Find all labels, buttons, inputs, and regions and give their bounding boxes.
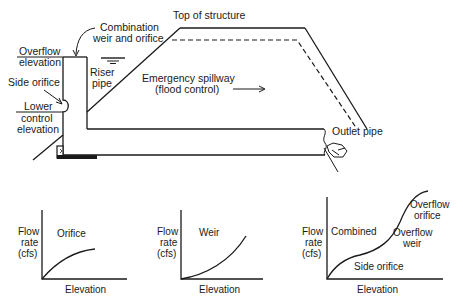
- chart-orifice-title: Orifice: [57, 228, 86, 239]
- label-side-orifice: Side orifice: [8, 76, 60, 88]
- chart-weir-xlabel: Elevation: [199, 284, 240, 295]
- riser-left-wall: [63, 57, 68, 155]
- chart-orifice: Flow rate (cfs) Orifice Elevation: [18, 210, 127, 295]
- label-combination-2: weir and orifice: [92, 32, 164, 44]
- label-top-of-structure: Top of structure: [173, 9, 246, 21]
- label-spillway-2: (flood control): [155, 83, 219, 95]
- chart-combined-xlabel: Elevation: [357, 284, 398, 295]
- label-riser-2: pipe: [92, 77, 112, 89]
- chart-weir-ylabel-2: rate: [160, 237, 178, 248]
- chart-weir-ylabel-1: Flow: [157, 226, 179, 237]
- chart-combined-overflow-weir-2: weir: [402, 238, 422, 249]
- chart-combined-title: Combined: [331, 226, 377, 237]
- label-overflow-2: elevation: [19, 56, 61, 68]
- chart-combined-overflow-orifice-2: orifice: [414, 210, 441, 221]
- chart-orifice-xlabel: Elevation: [65, 284, 106, 295]
- chart-weir-curve: [181, 236, 246, 279]
- chart-combined-overflow-orifice-1: Overflow: [410, 199, 450, 210]
- chart-weir-title: Weir: [199, 227, 220, 238]
- chart-combined-ylabel-3: (cfs): [302, 248, 321, 259]
- riprap-stones: [327, 143, 347, 157]
- outlet-ground-line: [324, 148, 338, 172]
- chart-combined-side-orifice: Side orifice: [354, 261, 404, 272]
- label-lower-1: Lower: [24, 100, 53, 112]
- chart-orifice-ylabel-2: rate: [21, 237, 39, 248]
- chart-combined-overflow-weir-1: Overflow: [393, 227, 433, 238]
- chart-combined-ylabel-1: Flow: [302, 226, 324, 237]
- chart-orifice-axes: [42, 210, 127, 279]
- riser-spillway-diagram: Top of structure Combination weir and or…: [0, 0, 463, 304]
- structure-section: Top of structure Combination weir and or…: [8, 9, 383, 172]
- chart-combined-ylabel-2: rate: [305, 237, 323, 248]
- chart-orifice-ylabel-3: (cfs): [18, 248, 37, 259]
- chart-weir: Flow rate (cfs) Weir Elevation: [157, 210, 263, 295]
- water-surface-icon: [101, 58, 125, 64]
- chart-orifice-ylabel-1: Flow: [18, 226, 40, 237]
- label-outlet-pipe: Outlet pipe: [332, 125, 383, 137]
- chart-orifice-curve: [42, 249, 95, 279]
- embankment-downstream-slope: [305, 28, 367, 129]
- chart-combined: Flow rate (cfs) Combined Side orifice Ov…: [302, 191, 450, 295]
- chart-weir-axes: [181, 210, 263, 279]
- label-lower-3: elevation: [17, 123, 59, 135]
- riser-base-footing: [57, 146, 97, 159]
- chart-weir-ylabel-3: (cfs): [157, 248, 176, 259]
